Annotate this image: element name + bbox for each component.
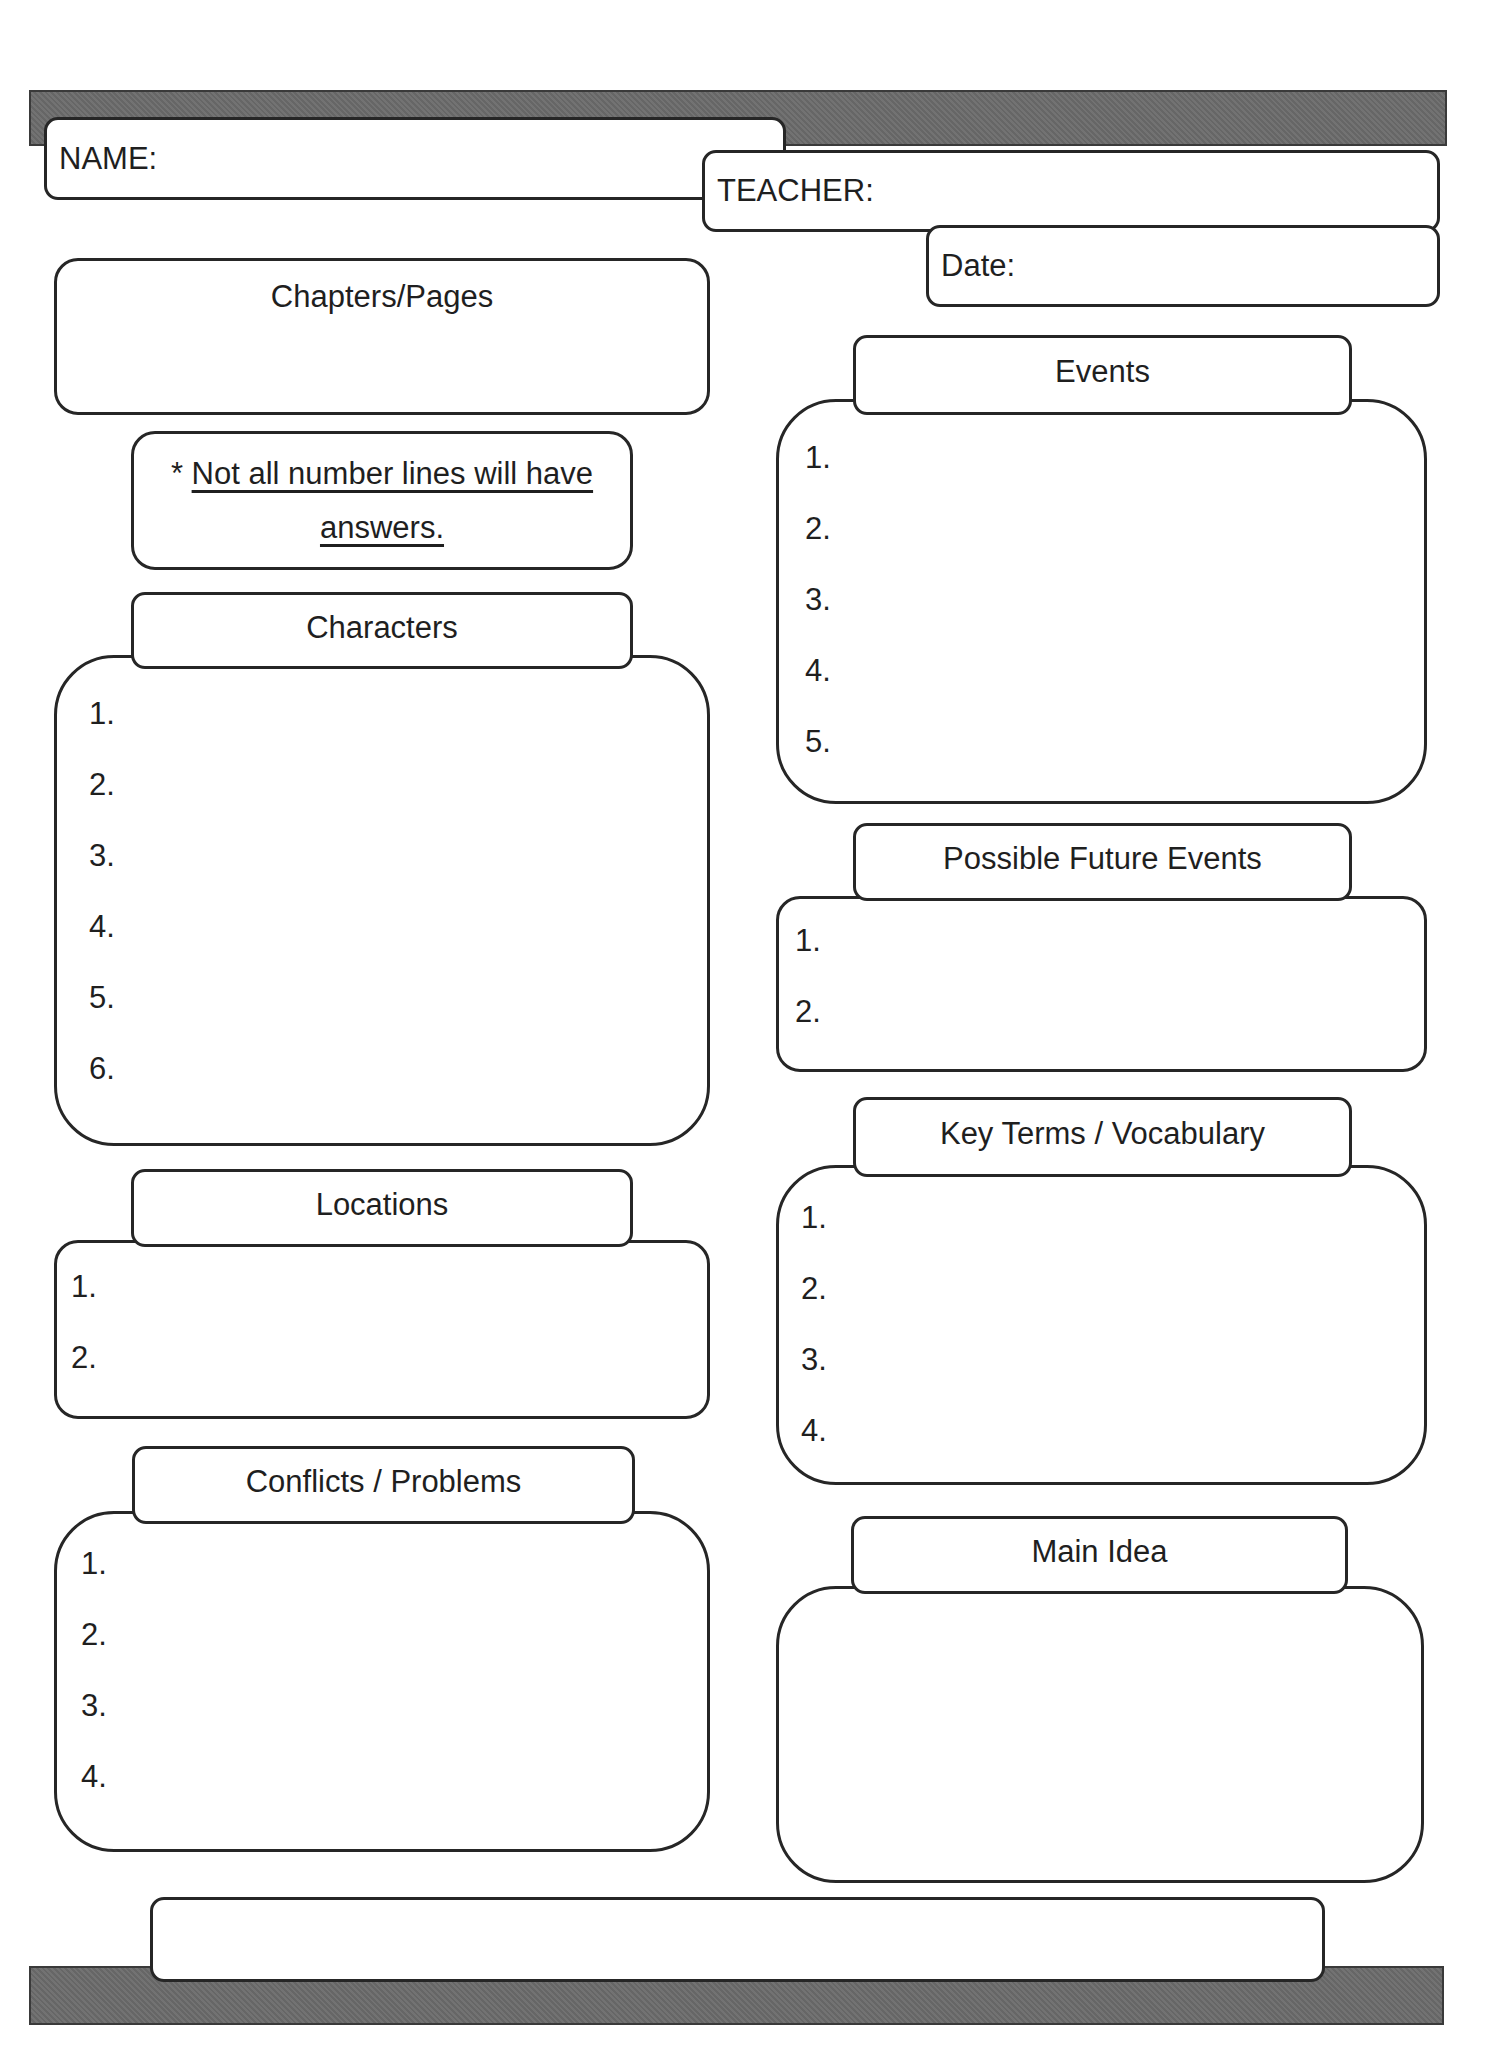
chapters-pages-box[interactable]: Chapters/Pages bbox=[54, 258, 710, 415]
events-box[interactable]: 1. 2. 3. 4. 5. bbox=[776, 399, 1427, 804]
conflicts-header: Conflicts / Problems bbox=[132, 1446, 635, 1524]
events-item-5: 5. bbox=[805, 724, 831, 760]
key-terms-item-3: 3. bbox=[801, 1342, 827, 1378]
characters-item-5: 5. bbox=[89, 980, 115, 1016]
key-terms-header: Key Terms / Vocabulary bbox=[853, 1097, 1352, 1177]
conflicts-item-1: 1. bbox=[81, 1546, 107, 1582]
key-terms-item-1: 1. bbox=[801, 1200, 827, 1236]
main-idea-header: Main Idea bbox=[851, 1516, 1348, 1594]
key-terms-item-4: 4. bbox=[801, 1413, 827, 1449]
events-item-1: 1. bbox=[805, 440, 831, 476]
name-label: NAME: bbox=[59, 141, 157, 177]
note-line-1: * Not all number lines will have bbox=[171, 447, 593, 501]
teacher-field[interactable]: TEACHER: bbox=[702, 150, 1440, 232]
chapters-pages-title: Chapters/Pages bbox=[57, 279, 707, 315]
locations-header: Locations bbox=[131, 1169, 633, 1247]
key-terms-item-2: 2. bbox=[801, 1271, 827, 1307]
characters-item-6: 6. bbox=[89, 1051, 115, 1087]
key-terms-box[interactable]: 1. 2. 3. 4. bbox=[776, 1165, 1427, 1485]
teacher-label: TEACHER: bbox=[717, 173, 874, 209]
future-events-item-2: 2. bbox=[795, 994, 821, 1030]
note-box: * Not all number lines will have answers… bbox=[131, 431, 633, 570]
events-item-3: 3. bbox=[805, 582, 831, 618]
locations-item-1: 1. bbox=[71, 1269, 97, 1305]
date-label: Date: bbox=[941, 248, 1015, 284]
conflicts-item-2: 2. bbox=[81, 1617, 107, 1653]
locations-box[interactable]: 1. 2. bbox=[54, 1240, 710, 1419]
characters-box[interactable]: 1. 2. 3. 4. 5. 6. bbox=[54, 655, 710, 1146]
future-events-box[interactable]: 1. 2. bbox=[776, 896, 1427, 1072]
conflicts-item-4: 4. bbox=[81, 1759, 107, 1795]
locations-item-2: 2. bbox=[71, 1340, 97, 1376]
date-field[interactable]: Date: bbox=[926, 225, 1440, 307]
future-events-header: Possible Future Events bbox=[853, 823, 1352, 901]
conflicts-box[interactable]: 1. 2. 3. 4. bbox=[54, 1511, 710, 1852]
characters-item-3: 3. bbox=[89, 838, 115, 874]
events-header: Events bbox=[853, 335, 1352, 415]
main-idea-box[interactable] bbox=[776, 1586, 1424, 1883]
events-item-4: 4. bbox=[805, 653, 831, 689]
characters-header: Characters bbox=[131, 592, 633, 669]
characters-item-2: 2. bbox=[89, 767, 115, 803]
characters-item-4: 4. bbox=[89, 909, 115, 945]
events-item-2: 2. bbox=[805, 511, 831, 547]
note-line-2: answers. bbox=[320, 501, 444, 555]
name-field[interactable]: NAME: bbox=[44, 117, 786, 200]
bottom-blank-box[interactable] bbox=[150, 1897, 1325, 1982]
future-events-item-1: 1. bbox=[795, 923, 821, 959]
conflicts-item-3: 3. bbox=[81, 1688, 107, 1724]
characters-item-1: 1. bbox=[89, 696, 115, 732]
